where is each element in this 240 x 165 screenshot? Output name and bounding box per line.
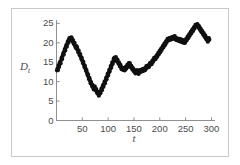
screenshot-root: 0510152025 50100150200250300 Dt t bbox=[0, 0, 240, 165]
scatter-chart: 0510152025 50100150200250300 Dt t bbox=[0, 0, 240, 165]
x-axis-label: t bbox=[126, 133, 142, 144]
x-tick-label: 200 bbox=[147, 124, 173, 134]
y-axis-label-subscript: t bbox=[28, 66, 30, 75]
x-tick-label: 250 bbox=[173, 124, 199, 134]
y-axis-label: Dt bbox=[20, 61, 30, 75]
x-tick-label: 50 bbox=[69, 124, 95, 134]
x-tick-label: 100 bbox=[95, 124, 121, 134]
x-tick-label: 300 bbox=[198, 124, 224, 134]
y-tick-label: 5 bbox=[37, 96, 54, 106]
data-point-group bbox=[55, 22, 212, 98]
y-tick-label: 20 bbox=[37, 38, 54, 48]
y-tick-label: 0 bbox=[37, 116, 54, 126]
y-tick-label: 15 bbox=[37, 57, 54, 67]
y-tick-label: 10 bbox=[37, 77, 54, 87]
y-tick-label: 25 bbox=[37, 18, 54, 28]
y-axis-label-text: D bbox=[20, 60, 28, 72]
data-point bbox=[207, 38, 211, 42]
